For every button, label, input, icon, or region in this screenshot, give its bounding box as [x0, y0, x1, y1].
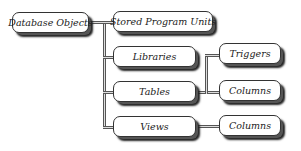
node-view-columns: Columns — [219, 115, 281, 136]
node-table-columns: Columns — [219, 80, 281, 101]
node-stored-program-units: Stored Program Units — [113, 11, 213, 32]
node-views: Views — [113, 116, 196, 137]
node-tables: Tables — [113, 81, 196, 102]
connector-tables-subtrunk — [205, 54, 208, 94]
connector-main-trunk — [103, 21, 106, 129]
connector-to-triggers — [205, 54, 220, 57]
node-database-objects: Database Objects — [12, 12, 89, 33]
node-triggers: Triggers — [219, 43, 281, 64]
node-libraries: Libraries — [113, 46, 196, 67]
connector-tables-to-columns — [196, 91, 220, 94]
connector-views-to-columns — [196, 125, 220, 128]
